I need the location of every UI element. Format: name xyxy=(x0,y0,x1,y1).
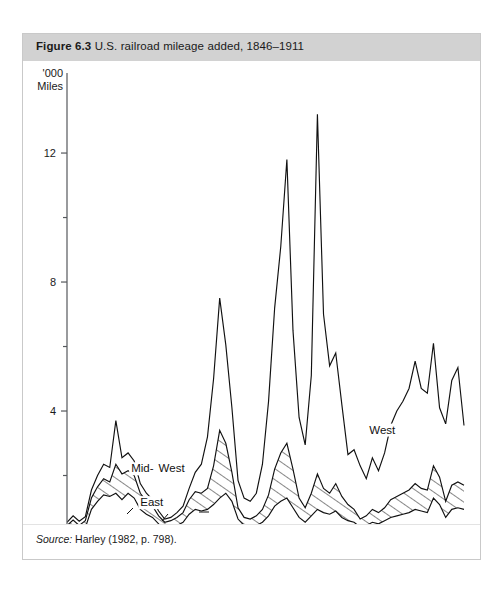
source-label: Source: xyxy=(36,533,72,545)
source-citation: Harley (1982, p. 798). xyxy=(72,533,176,545)
chart-bands xyxy=(67,114,464,526)
y-axis-title: '000 Miles xyxy=(37,67,63,92)
figure-caption-line: Figure 6.3 U.S. railroad mileage added, … xyxy=(36,40,304,52)
figure-source-bar: Source: Harley (1982, p. 798). xyxy=(23,524,480,559)
figure-title: U.S. railroad mileage added, 1846–1911 xyxy=(95,40,304,52)
y-tick-label: 12 xyxy=(44,147,56,159)
band-west xyxy=(67,114,464,525)
y-tick-label: 8 xyxy=(50,276,56,288)
series-label-west-3: West xyxy=(369,424,396,436)
figure-number: Figure 6.3 xyxy=(36,40,91,52)
figure-source: Source: Harley (1982, p. 798). xyxy=(36,533,177,545)
y-axis-title-line2: Miles xyxy=(37,80,63,92)
y-tick-label: 4 xyxy=(50,405,56,417)
series-label-east-2: East xyxy=(140,496,164,508)
y-axis-ticks: 4812 xyxy=(44,147,67,475)
series-label-mid-0: Mid- xyxy=(131,462,154,474)
figure-header-bar: Figure 6.3 U.S. railroad mileage added, … xyxy=(23,34,480,61)
series-label-west-1: West xyxy=(159,462,186,474)
y-axis-title-line1: '000 xyxy=(43,67,63,79)
railroad-mileage-chart: 4812 1850187018901910 '000 Miles Mid-Wes… xyxy=(23,61,480,526)
page-root: Figure 6.3 U.S. railroad mileage added, … xyxy=(0,0,503,591)
figure-card: Figure 6.3 U.S. railroad mileage added, … xyxy=(22,33,481,560)
chart-plot-area: 4812 1850187018901910 '000 Miles Mid-Wes… xyxy=(23,61,480,526)
